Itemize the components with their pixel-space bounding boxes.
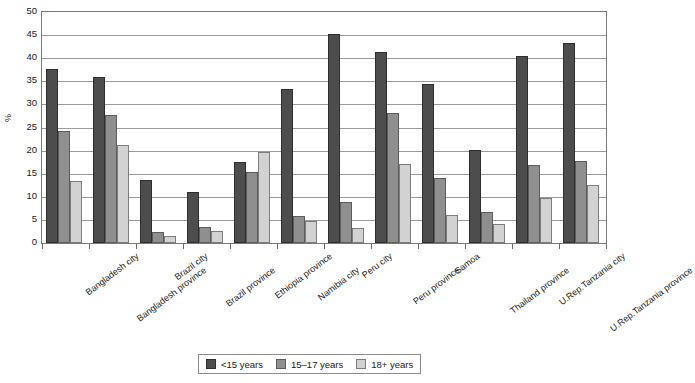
legend-swatch	[276, 359, 286, 369]
bar-group	[465, 12, 512, 243]
bar	[399, 164, 411, 243]
y-tick-label: 0	[11, 237, 37, 247]
bar	[140, 180, 152, 243]
bar	[575, 161, 587, 243]
y-tick-label: 35	[11, 75, 37, 85]
bar	[281, 89, 293, 243]
bar	[187, 192, 199, 243]
bar	[164, 236, 176, 243]
bar-group	[371, 12, 418, 243]
x-axis-label: Samoa	[453, 251, 482, 276]
bar	[540, 198, 552, 243]
bar	[422, 84, 434, 243]
bar	[587, 185, 599, 243]
bar	[293, 216, 305, 243]
y-tick-label: 30	[11, 98, 37, 108]
y-tick-label: 5	[11, 214, 37, 224]
y-tick-label: 40	[11, 52, 37, 62]
bar	[352, 228, 364, 243]
legend-item: 15–17 years	[276, 359, 343, 370]
bar	[481, 212, 493, 243]
legend-swatch	[206, 359, 216, 369]
x-axis-label: Brazil province	[224, 265, 277, 309]
y-tick-label: 15	[11, 168, 37, 178]
legend-label: 18+ years	[371, 359, 413, 370]
x-axis-label: Bangladesh city	[84, 251, 141, 297]
bar-group	[324, 12, 371, 243]
bar-groups	[42, 12, 606, 243]
bar	[469, 150, 481, 243]
bar-group	[89, 12, 136, 243]
y-tick-label: 45	[11, 29, 37, 39]
bar	[93, 77, 105, 243]
bar	[258, 152, 270, 243]
bar	[375, 52, 387, 243]
x-axis-label: Namibia city	[316, 265, 361, 302]
x-axis-label: U.Rep.Tanzania city	[557, 251, 627, 307]
bar	[117, 145, 129, 243]
x-axis-label: U.Rep.Tanzania province	[608, 265, 694, 334]
bar	[340, 202, 352, 243]
bar	[493, 224, 505, 243]
bar	[152, 232, 164, 243]
bar-group	[136, 12, 183, 243]
bar	[105, 115, 117, 243]
bar	[58, 131, 70, 243]
legend: <15 years15–17 years18+ years	[198, 354, 421, 374]
bar-group	[230, 12, 277, 243]
legend-swatch	[356, 359, 366, 369]
y-axis-tick-labels: 50454035302520151050	[9, 0, 37, 233]
y-tick-label: 25	[11, 122, 37, 132]
bar	[46, 69, 58, 243]
bar	[70, 181, 82, 243]
legend-label: <15 years	[221, 359, 263, 370]
bar-group	[42, 12, 89, 243]
bar	[234, 162, 246, 243]
bar	[211, 231, 223, 243]
legend-label: 15–17 years	[291, 359, 343, 370]
x-axis-label: Thailand province	[508, 265, 571, 316]
bar	[328, 34, 340, 243]
bar	[528, 165, 540, 243]
bar	[305, 221, 317, 243]
legend-item: <15 years	[206, 359, 263, 370]
bar-group	[512, 12, 559, 243]
bar-group	[277, 12, 324, 243]
legend-item: 18+ years	[356, 359, 413, 370]
y-tick-label: 50	[11, 6, 37, 16]
bar	[246, 172, 258, 243]
bar	[199, 227, 211, 243]
bar	[434, 178, 446, 243]
y-tick-label: 10	[11, 191, 37, 201]
x-axis-label: Peru city	[360, 251, 394, 280]
bar	[446, 215, 458, 243]
bar	[516, 56, 528, 243]
bar-group	[183, 12, 230, 243]
bar	[563, 43, 575, 244]
x-axis-labels: Bangladesh cityBangladesh provinceBrazil…	[0, 249, 614, 344]
y-tick-label: 20	[11, 145, 37, 155]
bar	[387, 113, 399, 243]
bar-group	[559, 12, 606, 243]
bar-group	[418, 12, 465, 243]
